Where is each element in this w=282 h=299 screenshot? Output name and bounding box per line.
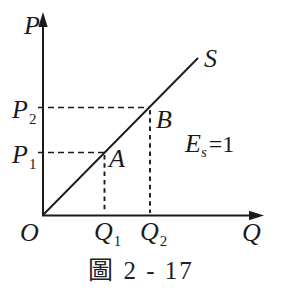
p2-label: P2 <box>11 95 36 127</box>
q2-label: Q2 <box>140 217 167 249</box>
supply-line <box>43 58 198 215</box>
p2-base: P <box>11 95 28 124</box>
elasticity-subscript: s <box>201 144 207 160</box>
supply-curve-diagram: P Q O S P2 P1 Q1 Q2 A B Es=1 <box>0 0 282 299</box>
q1-label: Q1 <box>94 217 121 249</box>
q2-subscript: 2 <box>160 233 168 249</box>
p-axis-label: P <box>23 11 40 40</box>
figure-caption-text: 圖 2 - 17 <box>88 257 194 284</box>
point-b-label: B <box>156 105 172 134</box>
point-a-label: A <box>107 144 125 173</box>
elasticity-annotation: Es=1 <box>184 129 234 160</box>
q2-base: Q <box>140 217 159 246</box>
p2-subscript: 2 <box>29 111 37 127</box>
p1-label: P1 <box>11 140 36 172</box>
elasticity-base: E <box>184 129 201 158</box>
elasticity-value: =1 <box>209 131 235 157</box>
q1-base: Q <box>94 217 113 246</box>
figure-2-17: P Q O S P2 P1 Q1 Q2 A B Es=1 圖 2 - 17 <box>0 0 282 299</box>
q1-subscript: 1 <box>114 233 122 249</box>
p1-subscript: 1 <box>29 156 37 172</box>
p1-base: P <box>11 140 28 169</box>
figure-caption: 圖 2 - 17 <box>0 256 282 286</box>
supply-label: S <box>204 44 217 73</box>
origin-label: O <box>20 218 39 247</box>
q-axis-label: Q <box>242 218 261 247</box>
